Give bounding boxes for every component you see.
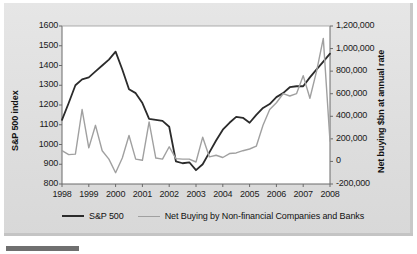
series-line-sp500: [62, 52, 330, 171]
legend-label-sp500: S&P 500: [89, 211, 124, 221]
axis-lines: [59, 26, 333, 187]
chart-legend: S&P 500 Net Buying by Non-financial Comp…: [62, 208, 362, 224]
legend-entry-sp500: S&P 500: [62, 211, 124, 221]
legend-swatch-net-buying-icon: [138, 216, 160, 217]
legend-entry-net-buying: Net Buying by Non-financial Companies an…: [138, 211, 364, 221]
series-lines: [62, 38, 330, 172]
series-line-net-buying: [62, 38, 330, 172]
caption-rule: [6, 246, 79, 251]
legend-label-net-buying: Net Buying by Non-financial Companies an…: [165, 211, 364, 221]
figure-panel: S&P 500 index Net buying $bn at annual r…: [4, 3, 413, 236]
legend-swatch-sp500-icon: [62, 215, 84, 217]
chart-plot-svg: [4, 3, 413, 236]
chart-area: S&P 500 index Net buying $bn at annual r…: [4, 3, 413, 236]
